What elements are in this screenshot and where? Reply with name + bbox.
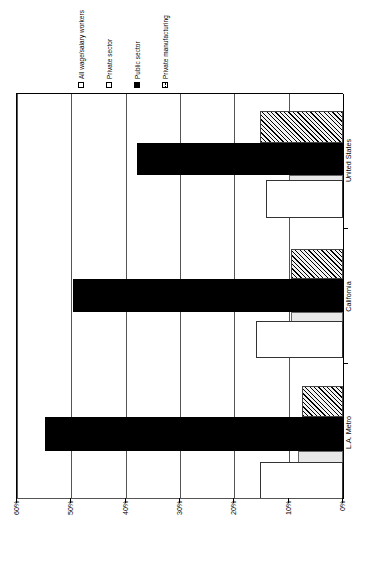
legend-entry-all-wage-salary-workers: All wage/salary workers [74,2,88,88]
legend-swatch-public-sector-icon [134,82,140,88]
category-tick-united-states [343,228,348,229]
category-tick-california [343,363,348,364]
bar-california-public-sector [73,279,343,312]
bar-group-california [17,229,343,364]
plot-area [16,93,343,499]
bar-california-private-manufacturing [291,249,343,279]
bar-group-united-states [17,94,343,229]
plot-inner [17,94,343,499]
legend-label-private-sector: Private sector [106,39,113,79]
bar-la-metro-public-sector [45,417,343,451]
legend-label-all-wage-salary-workers: All wage/salary workers [78,10,85,79]
legend-swatch-private-manufacturing-icon [162,82,168,88]
legend-label-public-sector: Public sector [134,41,141,79]
chart-figure: All wage/salary workers Private sector P… [0,0,369,576]
bar-group-la-metro [17,364,343,499]
legend-label-private-manufacturing: Private manufacturing [162,15,169,79]
bar-la-metro-private-manufacturing [302,386,343,417]
bar-la-metro-private-sector [260,462,343,499]
legend-swatch-private-sector-icon [106,82,112,88]
legend-entry-public-sector: Public sector [130,2,144,88]
legend-entry-private-sector: Private sector [102,2,116,88]
bar-united-states-private-manufacturing [260,111,343,143]
legend-swatch-all-wage-salary-workers-icon [78,82,84,88]
bar-united-states-private-sector [266,180,343,218]
bar-united-states-public-sector [137,143,343,175]
legend-entry-private-manufacturing: Private manufacturing [158,2,172,88]
bar-california-private-sector [256,321,343,358]
chart-legend: All wage/salary workers Private sector P… [88,2,198,90]
